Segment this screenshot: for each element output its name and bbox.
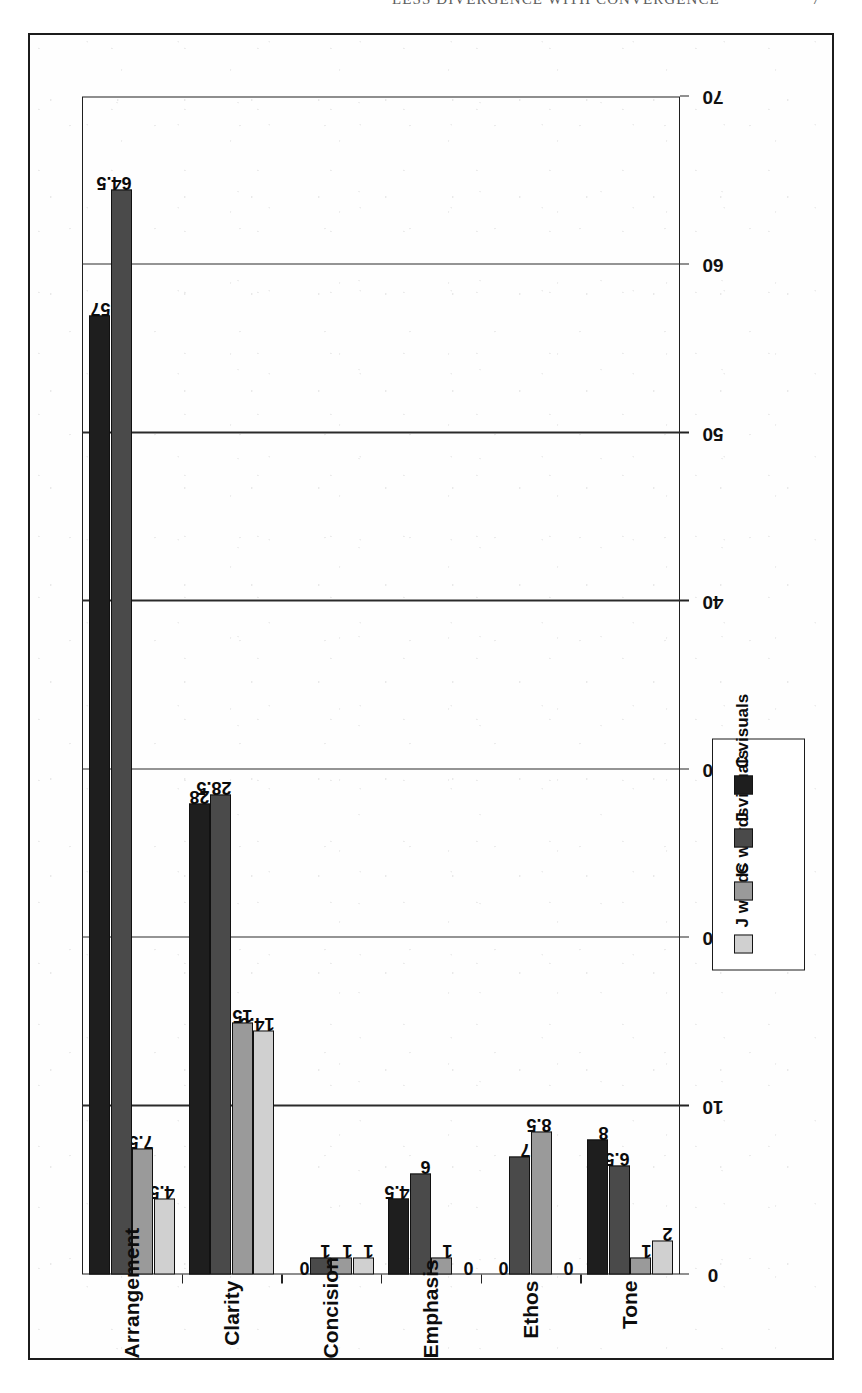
axis-tick [680,599,689,600]
category-separator [281,1274,282,1283]
category-label: Arrangement [120,1280,144,1358]
legend-entries: J wordsC wordsJ visualsC visuals [713,739,804,969]
axis-tick [680,936,689,937]
category-label: Emphasis [419,1280,443,1358]
running-header: LESS DIVERGENCE WITH CONVERGENCE 7 [0,0,862,14]
axis-tick [680,431,689,432]
axis-tick-label: 0 [691,1263,735,1285]
bar-chart: 4.57.564.55714.51528.52811100164.508.570… [30,35,836,1362]
axis-tick [680,1104,689,1105]
axis-tick-label: 10 [691,1095,735,1117]
legend-label: C visuals [733,693,753,768]
axis-tick [680,263,689,264]
legend: J wordsC wordsJ visualsC visuals [712,738,805,970]
category-separator [381,1274,382,1283]
legend-swatch [734,934,753,953]
category-separator [481,1274,482,1283]
value-axis: 010203040506070 [82,96,680,1274]
category-label: Concision [319,1280,343,1358]
page-number: 7 [812,0,820,8]
axis-tick-label: 50 [691,422,735,444]
legend-swatch [734,881,753,900]
legend-swatch [734,828,753,847]
category-label: Clarity [220,1280,244,1358]
legend-entry: C visuals [733,693,753,794]
axis-tick [680,95,689,96]
axis-tick [680,1273,689,1274]
axis-tick-label: 70 [691,85,735,107]
axis-tick-label: 60 [691,253,735,275]
rotated-chart-wrapper: 4.57.564.55714.51528.52811100164.508.570… [30,35,836,1362]
running-header-title: LESS DIVERGENCE WITH CONVERGENCE [392,0,720,8]
axis-tick [680,768,689,769]
legend-swatch [734,775,753,794]
category-separator [182,1274,183,1283]
axis-tick-label: 40 [691,590,735,612]
category-label: Ethos [519,1280,543,1358]
category-separator [580,1274,581,1283]
figure-frame: 4.57.564.55714.51528.52811100164.508.570… [28,33,834,1360]
category-label: Tone [618,1280,642,1358]
